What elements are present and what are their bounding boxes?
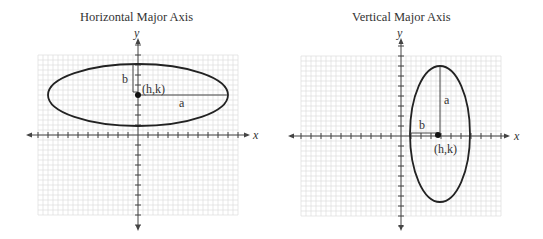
center-label: (h,k) — [142, 82, 165, 96]
y-axis-label: y — [133, 26, 140, 40]
major-axis-label: a — [179, 96, 185, 110]
minor-axis-label: b — [122, 72, 128, 86]
major-axis-label: a — [444, 93, 450, 107]
horizontal-major-axis-panel: Horizontal Major Axis (h,k) a b x y — [0, 0, 272, 239]
vertical-major-axis-panel: Vertical Major Axis (h,k) a b x y — [272, 0, 543, 239]
center-label: (h,k) — [434, 142, 457, 156]
vertical-ellipse-graph: (h,k) a b x y — [272, 0, 543, 239]
horizontal-ellipse-graph: (h,k) a b x y — [0, 0, 272, 239]
y-axis-label: y — [396, 26, 403, 40]
center-point — [135, 92, 141, 98]
x-axis-label: x — [252, 128, 259, 142]
center-point — [435, 132, 441, 138]
minor-axis-label: b — [419, 118, 425, 132]
x-axis-label: x — [513, 129, 520, 143]
